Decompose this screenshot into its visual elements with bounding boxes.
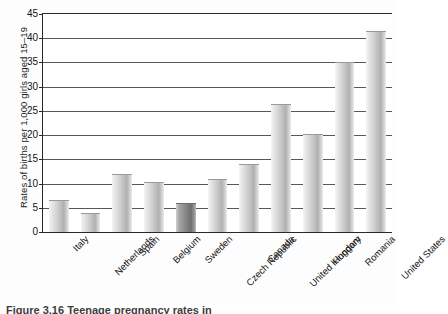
bar-canada[interactable]	[239, 164, 259, 232]
y-tick-label-0: 0	[8, 227, 38, 237]
x-label-canada: Canada	[266, 234, 296, 264]
x-label-italy: Italy	[71, 234, 90, 253]
y-tick-label-30: 30	[8, 82, 38, 92]
y-axis-tick-labels: 051015202530354045	[8, 0, 38, 305]
y-tick-label-15: 15	[8, 154, 38, 164]
x-label-belgium: Belgium	[171, 234, 202, 265]
bar-sweden[interactable]	[176, 203, 196, 232]
y-tick-label-35: 35	[8, 57, 38, 67]
bar-spain[interactable]	[112, 174, 132, 232]
y-tickmark-0	[39, 232, 43, 233]
x-label-spain: Spain	[137, 234, 161, 258]
plot-area	[42, 14, 392, 233]
y-tick-label-20: 20	[8, 130, 38, 140]
bar-italy[interactable]	[49, 200, 69, 232]
x-label-hungary: Hungary	[330, 234, 362, 266]
y-tick-label-25: 25	[8, 106, 38, 116]
x-axis-category-labels: ItalyNetherlandsSpainBelgiumSwedenCzech …	[42, 234, 391, 305]
bar-united-states[interactable]	[366, 31, 386, 232]
bar-romania[interactable]	[335, 62, 355, 232]
x-label-sweden: Sweden	[203, 234, 234, 265]
y-tick-label-10: 10	[8, 179, 38, 189]
y-tick-label-5: 5	[8, 203, 38, 213]
y-tick-label-40: 40	[8, 33, 38, 43]
bar-czech-republic[interactable]	[208, 179, 228, 232]
x-label-romania: Romania	[363, 234, 397, 268]
bar-netherlands[interactable]	[81, 213, 101, 232]
bar-hungary[interactable]	[303, 134, 323, 232]
bar-belgium[interactable]	[144, 182, 164, 232]
x-label-united-states: United States	[400, 234, 447, 281]
bar-united-kingdom[interactable]	[271, 104, 291, 232]
y-tick-label-45: 45	[8, 9, 38, 19]
figure-caption: Figure 3.16 Teenage pregnancy rates in	[6, 304, 212, 314]
bar-series	[43, 14, 392, 232]
